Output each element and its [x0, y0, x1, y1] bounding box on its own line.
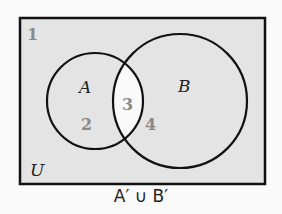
region-label-2: 2 [81, 115, 92, 134]
set-a-label: A [77, 77, 91, 97]
region-label-4: 4 [145, 115, 156, 134]
set-b-label: B [177, 76, 191, 96]
diagram-caption: A′ ∪ B′ [0, 186, 282, 206]
region-label-1: 1 [27, 25, 38, 44]
venn-diagram: 1 A 2 3 4 B U [0, 0, 282, 214]
region-label-3: 3 [122, 95, 133, 114]
universe-label: U [30, 160, 45, 180]
